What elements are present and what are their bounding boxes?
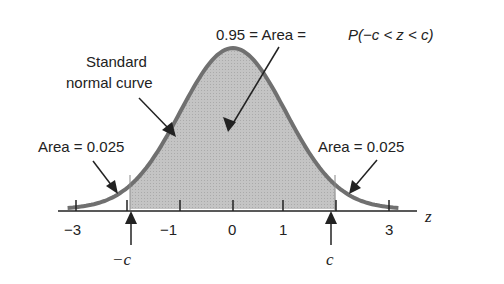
curve-label-line1: Standard: [86, 53, 147, 70]
normal-curve-figure: −3 −1 0 1 3 z −c c 0.95 = Area = P(−c < …: [0, 0, 504, 284]
tick-label-1: 1: [279, 221, 287, 238]
tick-label-3: 3: [385, 221, 393, 238]
right-pointer-line: [355, 160, 377, 186]
chart-svg: −3 −1 0 1 3 z −c c 0.95 = Area = P(−c < …: [0, 0, 504, 284]
axis-variable-z: z: [424, 207, 432, 226]
right-tail-area-label: Area = 0.025: [318, 138, 404, 155]
left-tail-area-label: Area = 0.025: [38, 138, 124, 155]
neg-c-arrow-icon: [125, 211, 137, 245]
area-equation-left: 0.95 = Area =: [216, 26, 306, 43]
area-equation-right: P(−c < z < c): [348, 26, 433, 43]
shaded-area-95: [130, 48, 336, 209]
tick-label-m3: −3: [64, 221, 81, 238]
left-pointer-line: [93, 161, 112, 186]
axis-ticks: [76, 200, 389, 211]
pos-c-arrow-icon: [325, 211, 337, 245]
tick-label-0: 0: [228, 221, 236, 238]
left-arrow-icon: [106, 180, 118, 194]
curve-pointer-line: [139, 98, 170, 130]
neg-c-label: −c: [112, 250, 131, 269]
curve-label-line2: normal curve: [66, 74, 153, 91]
pos-c-label: c: [326, 250, 334, 269]
tick-label-m1: −1: [160, 221, 177, 238]
